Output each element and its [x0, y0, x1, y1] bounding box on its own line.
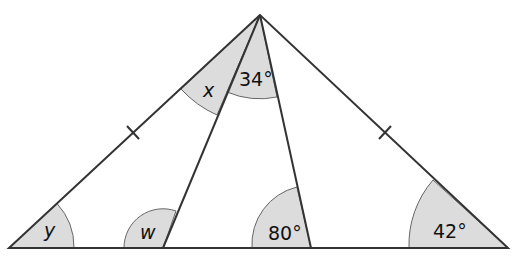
label-42: 42° [433, 220, 467, 242]
geometry-diagram: x 34° y w 80° 42° [0, 0, 523, 266]
triangle-figure: x 34° y w 80° 42° [0, 0, 523, 266]
label-80: 80° [268, 222, 302, 244]
angle-y-sector [9, 204, 74, 249]
label-w: w [140, 221, 156, 243]
label-y: y [43, 219, 56, 241]
label-34: 34° [239, 68, 273, 90]
label-x: x [202, 79, 215, 101]
left-cevian [163, 15, 260, 248]
